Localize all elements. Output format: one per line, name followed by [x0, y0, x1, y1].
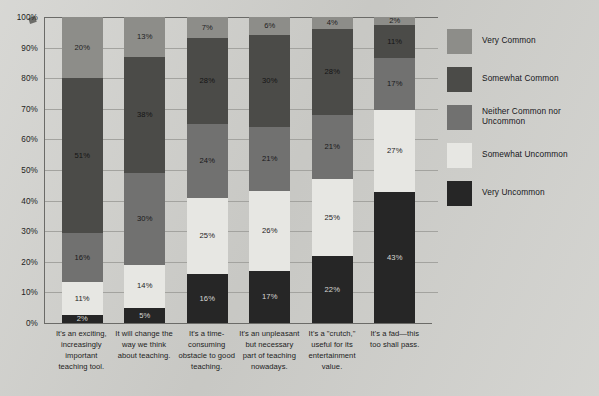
- legend-item-label: Somewhat Uncommon: [482, 150, 568, 160]
- bar-segment-value-label: 25%: [325, 214, 341, 222]
- legend-item-label: Very Uncommon: [482, 188, 545, 198]
- bar-column: 20%51%16%11%2%: [51, 17, 114, 323]
- bar-segment-value-label: 22%: [325, 286, 341, 294]
- chart-legend: Very CommonSomewhat CommonNeither Common…: [447, 26, 597, 216]
- stacked-bar[interactable]: 20%51%16%11%2%: [62, 17, 103, 323]
- stacked-bar[interactable]: 7%28%24%25%16%: [187, 17, 228, 323]
- y-axis-tick-label: 0%: [26, 319, 38, 328]
- bar-segment[interactable]: 16%: [62, 233, 103, 282]
- bar-segment-value-label: 28%: [200, 77, 216, 85]
- y-axis-tick-label: 60%: [21, 135, 38, 144]
- bar-segment[interactable]: 5%: [124, 308, 165, 323]
- legend-color-swatch: [447, 181, 472, 206]
- bar-segment-value-label: 27%: [387, 147, 403, 155]
- bar-segment[interactable]: 28%: [187, 38, 228, 124]
- legend-item-label: Neither Common nor Uncommon: [482, 107, 597, 127]
- bar-segment-value-label: 21%: [325, 143, 341, 151]
- bar-segment[interactable]: 17%: [249, 271, 290, 323]
- bar-segment[interactable]: 22%: [312, 256, 353, 323]
- bar-segment[interactable]: 7%: [187, 17, 228, 38]
- y-axis-tick-label: 20%: [21, 257, 38, 266]
- bar-segment-value-label: 11%: [387, 38, 402, 46]
- y-axis-tick-label: 70%: [21, 104, 38, 113]
- bar-segment[interactable]: 20%: [62, 17, 103, 78]
- bar-segment[interactable]: 6%: [249, 17, 290, 35]
- stacked-bar[interactable]: 2%11%17%27%43%: [374, 17, 415, 323]
- bar-segment-value-label: 16%: [200, 295, 216, 303]
- legend-item[interactable]: Somewhat Common: [447, 64, 597, 94]
- bar-segment[interactable]: 38%: [124, 57, 165, 173]
- bar-segment-value-label: 20%: [75, 44, 91, 52]
- legend-color-swatch: [447, 143, 472, 168]
- bar-column: 2%11%17%27%43%: [364, 17, 427, 323]
- bar-segment[interactable]: 30%: [124, 173, 165, 265]
- bar-segment[interactable]: 2%: [374, 17, 415, 25]
- bar-segment-value-label: 24%: [200, 157, 216, 165]
- bar-segment-value-label: 14%: [137, 282, 153, 290]
- bar-segment[interactable]: 30%: [249, 35, 290, 127]
- bar-segment[interactable]: 2%: [62, 315, 103, 323]
- y-axis-tick-label: 100%: [17, 13, 38, 22]
- bar-column: 13%38%30%14%5%: [114, 17, 177, 323]
- bar-segment-value-label: 5%: [139, 312, 150, 320]
- bar-column: 6%30%21%26%17%: [239, 17, 302, 323]
- bar-segment-value-label: 17%: [262, 293, 278, 301]
- bar-segment-value-label: 43%: [387, 254, 403, 262]
- bar-segment[interactable]: 16%: [187, 274, 228, 323]
- stacked-bar[interactable]: 6%30%21%26%17%: [249, 17, 290, 323]
- bar-segment-value-label: 26%: [262, 227, 278, 235]
- bar-segment-value-label: 51%: [75, 152, 91, 160]
- x-axis-category-labels: It's an exciting, increasingly important…: [44, 328, 432, 372]
- bar-segment-value-label: 16%: [75, 254, 91, 262]
- bar-segment[interactable]: 11%: [374, 25, 415, 59]
- legend-item[interactable]: Very Common: [447, 26, 597, 56]
- bar-segment[interactable]: 25%: [187, 198, 228, 275]
- x-axis-category-label: It's an unpleasant but necessary part of…: [238, 328, 301, 372]
- bar-segment[interactable]: 51%: [62, 78, 103, 233]
- bar-segment-value-label: 30%: [262, 77, 278, 85]
- y-axis-tick-label: 90%: [21, 43, 38, 52]
- legend-item[interactable]: Very Uncommon: [447, 178, 597, 208]
- bar-segment[interactable]: 11%: [62, 282, 103, 316]
- chart-page: 100%90%80%70%60%50%40%30%20%10%0% 20%51%…: [0, 0, 599, 396]
- bar-segment[interactable]: 4%: [312, 17, 353, 29]
- legend-color-swatch: [447, 67, 472, 92]
- stacked-bar[interactable]: 4%28%21%25%22%: [312, 17, 353, 323]
- legend-item[interactable]: Neither Common nor Uncommon: [447, 102, 597, 132]
- legend-color-swatch: [447, 105, 472, 130]
- stacked-bar[interactable]: 13%38%30%14%5%: [124, 17, 165, 323]
- bar-segment[interactable]: 13%: [124, 17, 165, 57]
- bar-segment-value-label: 11%: [75, 295, 90, 303]
- y-axis-tick-label: 40%: [21, 196, 38, 205]
- bar-segment-value-label: 28%: [325, 68, 341, 76]
- bar-segment[interactable]: 28%: [312, 29, 353, 115]
- bar-segment[interactable]: 21%: [312, 115, 353, 179]
- y-axis-tick-label: 10%: [21, 288, 38, 297]
- bar-segment[interactable]: 24%: [187, 124, 228, 197]
- bar-segment[interactable]: 43%: [374, 192, 415, 323]
- x-axis-category-label: It's a "crutch," useful for its entertai…: [301, 328, 364, 372]
- x-axis-category-label: It will change the way we think about te…: [113, 328, 176, 372]
- bar-segment-value-label: 25%: [200, 232, 216, 240]
- bar-segment[interactable]: 26%: [249, 191, 290, 271]
- plot-wrapper: 100%90%80%70%60%50%40%30%20%10%0% 20%51%…: [44, 17, 432, 324]
- plot-area: 100%90%80%70%60%50%40%30%20%10%0% 20%51%…: [44, 17, 432, 324]
- bar-segment[interactable]: 25%: [312, 179, 353, 256]
- bar-segment[interactable]: 14%: [124, 265, 165, 308]
- bar-segment[interactable]: 17%: [374, 58, 415, 110]
- bar-segment-value-label: 6%: [264, 22, 275, 30]
- bar-segment[interactable]: 21%: [249, 127, 290, 191]
- bar-segment[interactable]: 27%: [374, 110, 415, 192]
- legend-item-label: Very Common: [482, 36, 536, 46]
- bar-segment-value-label: 4%: [327, 19, 338, 27]
- bar-segment-value-label: 2%: [77, 315, 88, 323]
- legend-item[interactable]: Somewhat Uncommon: [447, 140, 597, 170]
- bar-segment-value-label: 30%: [137, 215, 153, 223]
- y-axis-tick-label: 50%: [21, 166, 38, 175]
- bar-column: 4%28%21%25%22%: [301, 17, 364, 323]
- x-axis-category-label: It's a fad—this too shall pass.: [363, 328, 426, 372]
- legend-color-swatch: [447, 29, 472, 54]
- x-axis-category-label: It's an exciting, increasingly important…: [50, 328, 113, 372]
- bar-segment-value-label: 7%: [202, 24, 213, 32]
- bar-segment-value-label: 13%: [137, 33, 153, 41]
